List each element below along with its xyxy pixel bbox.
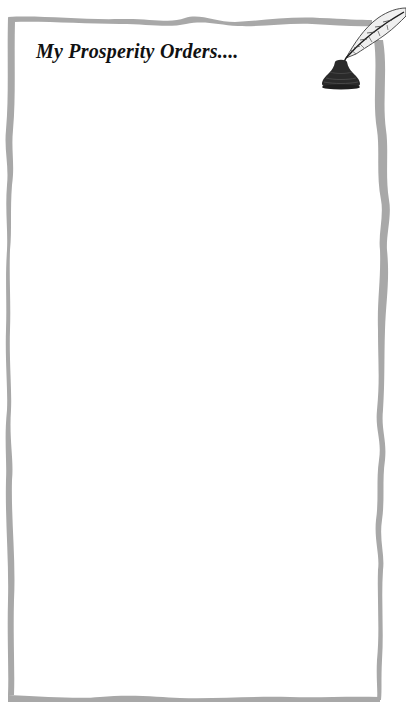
writing-area (30, 90, 360, 680)
quill-and-inkwell-icon (320, 0, 406, 100)
left-border-ribbon (6, 17, 15, 695)
page-title: My Prosperity Orders.... (36, 40, 239, 63)
inkwell-icon (322, 60, 360, 90)
top-border-ribbon (8, 16, 372, 26)
quill-feather-icon (343, 8, 406, 64)
right-border-ribbon (374, 40, 390, 700)
bottom-border-ribbon (8, 695, 380, 702)
stationery-page: My Prosperity Orders.... (0, 0, 406, 702)
